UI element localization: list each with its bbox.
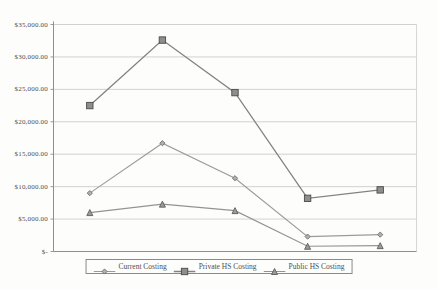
square-marker-icon xyxy=(174,262,196,271)
legend-swatch-svg xyxy=(264,267,286,276)
square-marker xyxy=(304,195,310,201)
line-chart: $-$5,000.00$10,000.00$15,000.00$20,000.0… xyxy=(0,0,438,289)
plot-area xyxy=(0,0,438,289)
legend-label-private-hs-costing: Private HS Costing xyxy=(199,262,257,271)
square-marker xyxy=(377,187,383,193)
y-axis-labels: $-$5,000.00$10,000.00$15,000.00$20,000.0… xyxy=(2,0,48,289)
y-axis-tick-label: $15,000.00 xyxy=(2,150,48,158)
legend-label-public-hs-costing: Public HS Costing xyxy=(289,262,345,271)
legend: Current Costing Private HS Costing Publi… xyxy=(86,259,353,274)
triangle-marker-icon xyxy=(264,262,286,271)
y-axis-tick-label: $10,000.00 xyxy=(2,183,48,191)
legend-item-public-hs-costing: Public HS Costing xyxy=(264,262,345,271)
legend-item-private-hs-costing: Private HS Costing xyxy=(174,262,257,271)
diamond-marker-icon xyxy=(94,262,116,271)
series-line-1 xyxy=(90,40,380,198)
y-axis-tick-label: $5,000.00 xyxy=(2,215,48,223)
legend-swatch-svg xyxy=(94,267,116,276)
diamond-marker xyxy=(102,269,107,274)
y-axis-tick-label: $20,000.00 xyxy=(2,118,48,126)
legend-label-current-costing: Current Costing xyxy=(119,262,167,271)
y-axis-tick-label: $35,000.00 xyxy=(2,21,48,29)
legend-item-current-costing: Current Costing xyxy=(94,262,167,271)
square-marker xyxy=(159,37,165,43)
y-axis-tick-label: $- xyxy=(2,248,48,256)
legend-swatch-svg xyxy=(174,267,196,276)
square-marker xyxy=(232,89,238,95)
series-line-0 xyxy=(90,143,380,236)
square-marker xyxy=(87,102,93,108)
square-marker xyxy=(181,268,187,274)
y-axis-tick-label: $25,000.00 xyxy=(2,85,48,93)
diamond-marker xyxy=(378,232,383,237)
y-axis-tick-label: $30,000.00 xyxy=(2,53,48,61)
